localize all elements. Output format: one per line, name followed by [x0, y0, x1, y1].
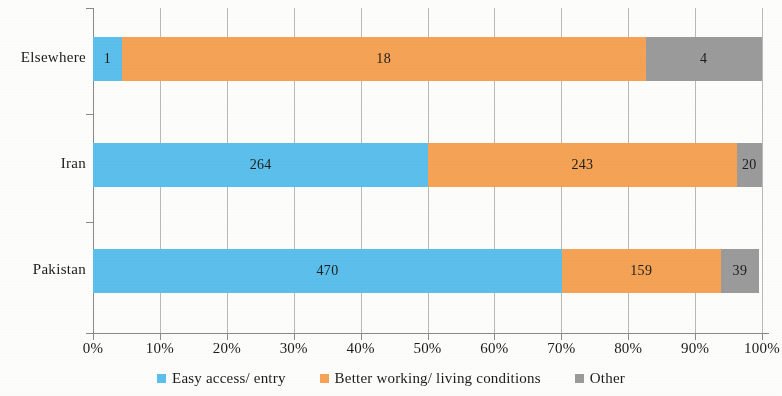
x-axis-label: 40% [347, 340, 375, 357]
x-axis-tick [361, 333, 362, 340]
x-axis-label: 20% [213, 340, 241, 357]
bar-value-label: 159 [630, 264, 652, 278]
x-axis-label: 0% [83, 340, 103, 357]
legend-swatch-icon [575, 374, 584, 383]
x-axis-label: 70% [547, 340, 575, 357]
bar-segment: 264 [93, 143, 428, 187]
x-axis-tick [695, 333, 696, 340]
bar-segment: 1 [93, 37, 122, 81]
legend-swatch-icon [157, 374, 166, 383]
y-axis-tick [86, 8, 94, 9]
x-axis-tick [227, 333, 228, 340]
x-axis-tick [561, 333, 562, 340]
x-axis-label: 50% [413, 340, 441, 357]
legend-item[interactable]: Better working/ living conditions [320, 370, 541, 387]
y-axis-tick [86, 222, 94, 223]
gridline [762, 8, 763, 333]
bar-elsewhere: 1184 [93, 37, 762, 81]
legend-label: Other [590, 370, 625, 387]
x-axis-label: 10% [146, 340, 174, 357]
x-axis-label: 30% [280, 340, 308, 357]
legend-label: Better working/ living conditions [335, 370, 541, 387]
legend-item[interactable]: Other [575, 370, 625, 387]
bar-segment: 18 [122, 37, 646, 81]
category-label-elsewhere: Elsewhere [21, 49, 86, 66]
bar-pakistan: 47015939 [93, 249, 762, 293]
x-axis-tick [294, 333, 295, 340]
stacked-bar-chart: 0%10%20%30%40%50%60%70%80%90%100%Elsewhe… [0, 0, 782, 396]
x-axis-tick [762, 333, 763, 340]
x-axis-label: 60% [480, 340, 508, 357]
bar-segment: 159 [562, 249, 721, 293]
x-axis-label: 80% [614, 340, 642, 357]
x-axis-tick [628, 333, 629, 340]
legend-swatch-icon [320, 374, 329, 383]
bar-value-label: 1 [104, 52, 111, 66]
bar-value-label: 39 [733, 264, 748, 278]
legend-label: Easy access/ entry [172, 370, 286, 387]
x-axis-tick [93, 333, 94, 340]
x-axis-tick [428, 333, 429, 340]
bar-segment: 243 [428, 143, 736, 187]
x-axis-tick [160, 333, 161, 340]
bar-value-label: 243 [571, 158, 593, 172]
category-label-iran: Iran [61, 155, 86, 172]
legend-item[interactable]: Easy access/ entry [157, 370, 286, 387]
y-axis-tick [86, 114, 94, 115]
bar-segment: 20 [737, 143, 762, 187]
bar-value-label: 18 [376, 52, 391, 66]
x-axis-label: 90% [681, 340, 709, 357]
x-axis-label: 100% [744, 340, 780, 357]
bar-value-label: 20 [742, 158, 757, 172]
bar-value-label: 264 [250, 158, 272, 172]
category-label-pakistan: Pakistan [33, 261, 86, 278]
bar-iran: 26424320 [93, 143, 762, 187]
chart-legend: Easy access/ entryBetter working/ living… [0, 370, 782, 387]
x-axis-tick [494, 333, 495, 340]
bar-value-label: 470 [317, 264, 339, 278]
bar-segment: 4 [646, 37, 762, 81]
bar-segment: 39 [721, 249, 760, 293]
bar-segment: 470 [93, 249, 562, 293]
bar-value-label: 4 [700, 52, 707, 66]
